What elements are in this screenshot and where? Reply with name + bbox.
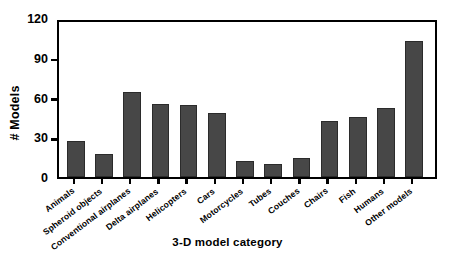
x-tick-5	[214, 179, 217, 184]
x-tick-2	[129, 179, 132, 184]
bar-chairs	[321, 121, 339, 177]
x-tick-11	[383, 179, 386, 184]
y-tick-label-60: 60	[2, 93, 48, 106]
x-tick-1	[101, 179, 104, 184]
bar-animals	[67, 141, 85, 177]
x-tick-3	[157, 179, 160, 184]
x-tick-4	[185, 179, 188, 184]
x-tick-7	[270, 179, 273, 184]
bar-tubes	[264, 164, 282, 177]
bar-fish	[349, 117, 367, 177]
plot-area	[57, 20, 437, 179]
x-tick-0	[73, 179, 76, 184]
x-tick-6	[242, 179, 245, 184]
x-label-chairs: Chairs	[302, 186, 330, 210]
bar-conventional-airplanes	[123, 92, 141, 177]
bar-delta-airplanes	[152, 104, 170, 177]
bar-cars	[208, 113, 226, 177]
bar-spheroid-objects	[95, 154, 113, 177]
x-axis-title: 3-D model category	[0, 236, 455, 248]
x-tick-9	[326, 179, 329, 184]
bars-container	[59, 22, 435, 177]
bar-helicopters	[180, 105, 198, 177]
x-label-fish: Fish	[337, 186, 357, 205]
bar-humans	[377, 108, 395, 177]
bar-other-models	[405, 41, 423, 177]
x-label-cars: Cars	[195, 186, 217, 206]
bar-chart-figure: # Models 0306090120 AnimalsSpheroid obje…	[0, 0, 455, 272]
y-tick-label-0: 0	[2, 172, 48, 185]
x-tick-12	[411, 179, 414, 184]
bar-couches	[293, 158, 311, 177]
y-axis-title: # Models	[8, 58, 22, 168]
x-tick-10	[355, 179, 358, 184]
y-tick-30	[51, 138, 58, 141]
y-tick-90	[51, 59, 58, 62]
y-tick-60	[51, 98, 58, 101]
x-tick-8	[298, 179, 301, 184]
y-tick-label-30: 30	[2, 132, 48, 145]
bar-motorcycles	[236, 161, 254, 177]
y-tick-label-120: 120	[2, 13, 48, 26]
y-tick-label-90: 90	[2, 53, 48, 66]
